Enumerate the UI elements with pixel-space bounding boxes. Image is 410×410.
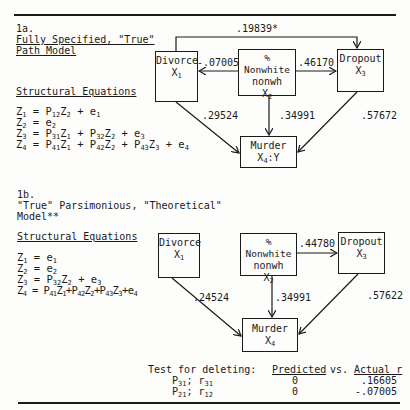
node-a-nonwhite: % Nonwhite nonwh X2 <box>238 49 296 96</box>
node-b-nonwhite-label: % Nonwhite <box>241 236 296 260</box>
node-a-nonwhite-var: X2 <box>239 88 295 103</box>
node-b-nonwhite-var: X2 <box>241 272 296 287</box>
node-b-nonwhite: % Nonwhite nonwh X2 <box>240 233 297 276</box>
node-a-dropout-label: Dropout <box>338 53 383 65</box>
node-a-nonwhite-sublabel: nonwh <box>239 76 295 88</box>
figure-b-title-line1: "True" Parsimonious, "Theoretical" <box>17 200 222 211</box>
test-row-2-predicted: 0 <box>292 386 298 397</box>
test-row-2-params: P21; r12 <box>172 386 213 397</box>
node-a-nonwhite-label: % Nonwhite <box>239 52 295 76</box>
coef-a-p43: .57672 <box>361 110 397 121</box>
node-a-divorce-var: X1 <box>156 67 197 82</box>
node-b-dropout: Dropout X3 <box>338 232 385 274</box>
node-b-nonwhite-sublabel: nonwh <box>241 260 296 272</box>
coef-a-p32: .46170 <box>298 57 334 68</box>
node-a-dropout: Dropout X3 <box>337 49 384 92</box>
node-a-murder-label: Murder <box>241 140 296 152</box>
coef-a-p12: -.07005 <box>197 57 239 68</box>
coef-a-p31: .19839* <box>236 23 278 34</box>
node-a-divorce: Divorce X1 <box>155 51 198 102</box>
coef-b-p43: .57622 <box>367 290 403 301</box>
test-col-predicted: Predicted <box>272 364 326 375</box>
node-b-divorce-label: Divorce <box>159 237 199 249</box>
test-label: Test for deleting: <box>148 364 256 375</box>
equation-b-4: Z4 = P41Z1+P42Z2+P43Z3+e4 <box>17 285 137 296</box>
test-col-actual: Actual r <box>354 364 402 375</box>
coef-b-p32: .44780 <box>299 238 335 249</box>
node-b-murder: Murder X4 <box>242 318 298 352</box>
test-col-vs: vs. <box>330 364 348 375</box>
test-row-1-actual: .16605 <box>361 375 397 386</box>
node-a-murder: Murder X4:Y <box>240 136 297 168</box>
figure-b-label: 1b. <box>17 189 35 200</box>
node-a-divorce-label: Divorce <box>156 55 197 67</box>
node-b-murder-var: X4 <box>243 335 297 350</box>
node-a-murder-var: X4:Y <box>241 152 296 167</box>
node-b-divorce: Divorce X1 <box>158 233 200 278</box>
test-row-2-actual: -.07005 <box>355 386 397 397</box>
test-row-1-predicted: 0 <box>292 375 298 386</box>
coef-b-p41: .24524 <box>193 292 229 303</box>
node-b-murder-label: Murder <box>243 323 297 335</box>
figure-b-equations-heading: Structural Equations <box>17 231 137 242</box>
figure-b-title-line2: Model** <box>17 211 59 222</box>
node-b-dropout-label: Dropout <box>339 236 384 248</box>
node-b-divorce-var: X1 <box>159 249 199 264</box>
coef-b-p42: .34991 <box>275 292 311 303</box>
coef-a-p42: .34991 <box>279 110 315 121</box>
node-a-dropout-var: X3 <box>338 65 383 80</box>
node-b-dropout-var: X3 <box>339 248 384 263</box>
coef-a-p41: .29524 <box>202 110 238 121</box>
test-row-1-params: P31; r31 <box>172 375 213 386</box>
